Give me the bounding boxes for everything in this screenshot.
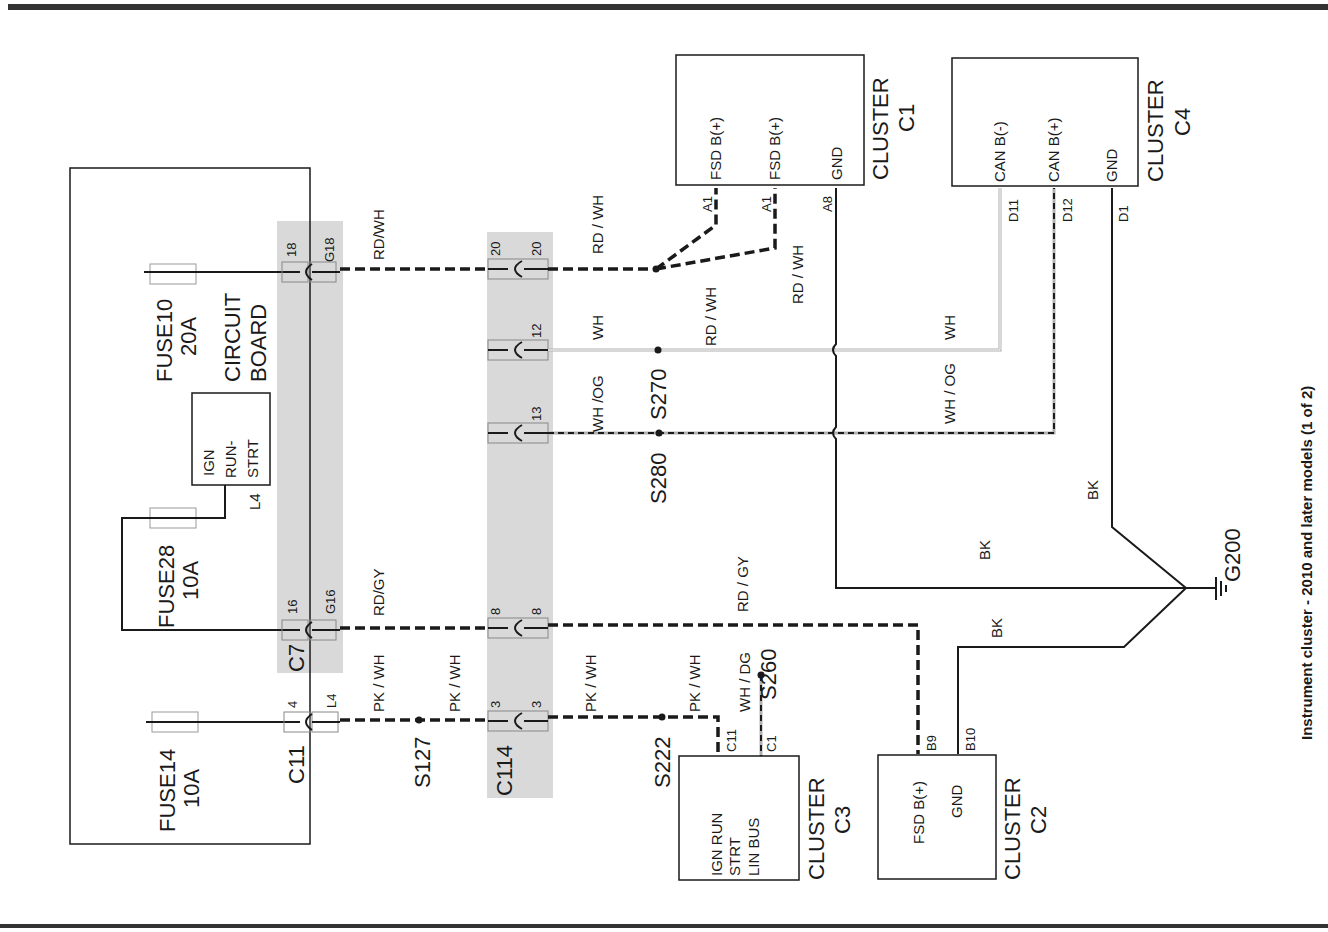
- wire-label-pkwh-2: PK / WH: [446, 654, 463, 712]
- wire-bk-c1-gnd: [833, 188, 1186, 588]
- splice-s280-label: S280: [646, 453, 671, 504]
- splice-s222-dot: [659, 714, 666, 721]
- c1-pin-a1-1: A1: [700, 196, 715, 212]
- wire-label-whdg: WH / DG: [736, 652, 753, 712]
- c11-pin-4: 4: [285, 701, 300, 708]
- diagram-title: Instrument cluster - 2010 and later mode…: [1298, 386, 1315, 740]
- wire-label-rdwh-4: RD / WH: [789, 245, 806, 304]
- circuit-board-box: [70, 168, 310, 844]
- bottom-border: [0, 924, 1328, 928]
- splice-s270-dot: [655, 347, 662, 354]
- c7-label: C7: [284, 644, 309, 672]
- splice-s270-label: S270: [646, 369, 671, 420]
- wire-label-pkwh-4: PK / WH: [686, 654, 703, 712]
- c1-cluster-id: C1: [894, 104, 919, 132]
- circuit-board-label-2: BOARD: [246, 304, 271, 382]
- cluster-c2-box: [878, 755, 996, 879]
- fuse14-label: FUSE14: [155, 749, 180, 832]
- c2-pin-b9: B9: [924, 735, 939, 751]
- relay-label-2: RUN-: [222, 441, 239, 479]
- splice-s260-label: S260: [756, 649, 781, 700]
- c2-cluster-id: C2: [1026, 806, 1051, 834]
- c114-label: C114: [492, 745, 517, 796]
- c1-cluster-label: CLUSTER: [868, 77, 893, 180]
- wire-label-pkwh-1: PK / WH: [370, 654, 387, 712]
- c4-cluster-label: CLUSTER: [1143, 79, 1168, 182]
- wire-label-rdgy-1: RD/GY: [370, 568, 387, 616]
- fuse10-rating: 20A: [176, 317, 201, 356]
- c11-pin4-connector: [306, 714, 312, 730]
- c7-pin-g16: G16: [323, 589, 338, 614]
- c4-pin-name-1: CAN B(-): [991, 121, 1008, 182]
- c7-pin-16: 16: [285, 600, 300, 614]
- c1-pin-name-3: GND: [828, 147, 845, 181]
- fuse10-label: FUSE10: [152, 299, 177, 382]
- fuse28-wire: [122, 485, 300, 630]
- wire-label-rdwh-3: RD / WH: [702, 287, 719, 346]
- wire-label-whog-1: WH /OG: [589, 375, 606, 432]
- relay-pin: L4: [246, 493, 263, 510]
- c114-pin-3-in: 3: [488, 701, 503, 708]
- wire-label-bk-3: BK: [988, 618, 1005, 638]
- relay-label-1: IGN: [200, 449, 217, 476]
- c2-pin-b10: B10: [963, 728, 978, 751]
- c114-pin-20-in: 20: [488, 242, 503, 256]
- wire-label-bk-2: BK: [976, 540, 993, 560]
- c3-pin-name-3: LIN BUS: [745, 818, 762, 876]
- c1-pin-name-2: FSD B(+): [766, 117, 783, 180]
- wire-label-rdwh-1: RD/WH: [370, 209, 387, 260]
- c3-pin-c1: C1: [764, 735, 779, 752]
- wire-bk-c4-gnd: [1112, 188, 1186, 588]
- c2-cluster-label: CLUSTER: [1000, 777, 1025, 880]
- wiring-diagram: FUSE10 20A CIRCUIT BOARD IGN RUN- STRT L…: [0, 0, 1328, 932]
- wire-label-whog-2: WH / OG: [941, 363, 958, 424]
- wire-label-wh-1: WH: [589, 315, 606, 340]
- wire-label-wh-2: WH: [941, 315, 958, 340]
- c4-pin-d12: D12: [1060, 198, 1075, 222]
- c7-pin-g18: G18: [322, 237, 337, 262]
- c2-pin-name-1: FSD B(+): [910, 781, 927, 844]
- c11-label: C11: [284, 745, 309, 784]
- c3-cluster-id: C3: [830, 806, 855, 834]
- fuse28-label: FUSE28: [154, 545, 179, 628]
- c1-pin-name-1: FSD B(+): [707, 117, 724, 180]
- c114-pin-8-in: 8: [488, 608, 503, 615]
- ground-g200-label: G200: [1220, 528, 1245, 582]
- c3-pin-name-2: STRT: [726, 837, 743, 876]
- wire-bk-c2-gnd: [958, 588, 1186, 754]
- c1-pin-a1-2: A1: [759, 196, 774, 212]
- circuit-board-label-1: CIRCUIT: [220, 293, 245, 382]
- fuse14-rating: 10A: [179, 769, 204, 808]
- c3-cluster-label: CLUSTER: [804, 777, 829, 880]
- c114-pin-13: 13: [529, 407, 544, 421]
- wire-pkwh-b: [548, 717, 718, 756]
- fuse28-rating: 10A: [178, 561, 203, 600]
- c3-pin-c11: C11: [724, 729, 739, 752]
- c2-pin-name-2: GND: [948, 785, 965, 819]
- c4-pin-d1: D1: [1116, 205, 1131, 222]
- splice-s280-dot: [656, 430, 663, 437]
- c4-cluster-id: C4: [1170, 108, 1195, 136]
- top-border: [8, 4, 1328, 10]
- c4-pin-name-3: GND: [1103, 149, 1120, 183]
- splice-s127-label: S127: [410, 737, 435, 788]
- wire-label-pkwh-3: PK / WH: [582, 654, 599, 712]
- wire-whog: [548, 188, 1054, 433]
- c114-pin-12: 12: [529, 324, 544, 338]
- wire-label-rdgy-2: RD / GY: [734, 556, 751, 612]
- wire-label-rdwh-2: RD / WH: [589, 195, 606, 254]
- fuse10-symbol: [150, 264, 196, 284]
- c114-pin-8-out: 8: [529, 608, 544, 615]
- relay-label-3: STRT: [244, 439, 261, 478]
- splice-s127-dot: [416, 717, 423, 724]
- wire-label-bk-1: BK: [1084, 480, 1101, 500]
- c1-pin-a8: A8: [820, 196, 835, 212]
- splice-s222-label: S222: [650, 737, 675, 788]
- c4-pin-name-2: CAN B(+): [1045, 117, 1062, 182]
- c114-pin-3-out: 3: [529, 701, 544, 708]
- c7-pin-18: 18: [284, 243, 299, 257]
- c114-pin-20-out: 20: [529, 242, 544, 256]
- c4-pin-d11: D11: [1006, 199, 1021, 222]
- c11-pin-l4: L4: [324, 694, 339, 708]
- c3-pin-name-1: IGN RUN: [708, 813, 725, 876]
